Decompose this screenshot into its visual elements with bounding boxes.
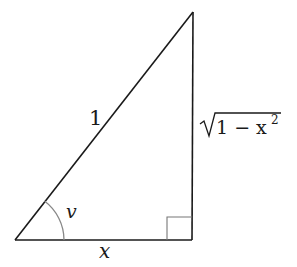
sqrt-exponent: 2 <box>271 113 279 127</box>
vertical-leg <box>192 12 193 240</box>
vertical-leg-label: 1 − x 2 <box>200 113 281 138</box>
right-angle-marker <box>167 217 192 240</box>
angle-label: v <box>66 200 77 222</box>
hypotenuse <box>15 12 193 240</box>
horizontal-leg-label: x <box>99 239 110 263</box>
angle-arc <box>45 201 65 240</box>
sqrt-radicand: 1 − x <box>216 116 267 138</box>
right-triangle-diagram: 1 1 − x 2 v x <box>0 0 297 267</box>
hypotenuse-label: 1 <box>89 106 102 130</box>
